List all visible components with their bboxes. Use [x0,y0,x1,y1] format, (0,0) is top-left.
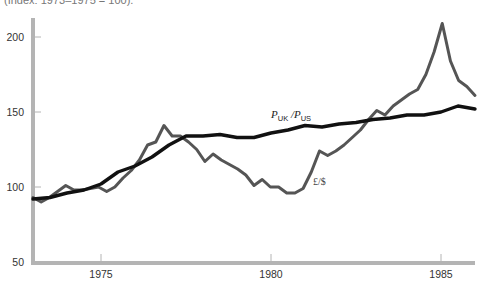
series-label-price-ratio: PUK /PUS [270,108,311,123]
y-tick-label: 100 [6,181,24,193]
x-tick-label: 1975 [89,268,113,280]
series-lines [33,24,475,203]
y-tick-label: 50 [12,256,24,268]
series-labels: PUK /PUS £/$ [270,108,326,187]
y-tick-label: 150 [6,106,24,118]
x-tick-label: 1985 [429,268,453,280]
series-label-pound-dollar: £/$ [313,176,326,187]
axes: 50100150200197519801985 [6,18,475,280]
x-tick-label: 1980 [259,268,283,280]
line-pound-dollar [33,24,475,203]
y-tick-label: 200 [6,31,24,43]
line-chart: 50100150200197519801985 PUK /PUS £/$ [0,0,487,293]
